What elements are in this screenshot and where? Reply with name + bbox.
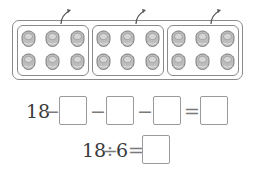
round-candy-icon — [145, 53, 160, 70]
eq2-result-box[interactable] — [142, 135, 170, 164]
eq1-minus-1: − — [44, 102, 60, 121]
eq1-answer-box-3[interactable] — [153, 96, 181, 125]
eq1-answer-box-1[interactable] — [59, 96, 87, 125]
round-candy-icon — [220, 30, 235, 47]
eq2-right: 6 — [116, 141, 128, 160]
curved-arrow-up-icon — [58, 7, 72, 25]
round-candy-icon — [171, 30, 186, 47]
round-candy-icon — [96, 30, 111, 47]
round-candy-icon — [220, 53, 235, 70]
eq1-result-box[interactable] — [200, 96, 228, 125]
round-candy-icon — [70, 53, 85, 70]
round-candy-icon — [145, 30, 160, 47]
eq1-equals: = — [184, 102, 200, 121]
round-candy-icon — [45, 53, 60, 70]
round-candy-icon — [45, 30, 60, 47]
round-candy-icon — [70, 30, 85, 47]
round-candy-icon — [21, 53, 36, 70]
eq1-minus-3: − — [137, 102, 153, 121]
round-candy-icon — [120, 30, 135, 47]
curved-arrow-up-icon — [133, 7, 147, 25]
eq1-answer-box-2[interactable] — [106, 96, 134, 125]
round-candy-icon — [195, 30, 210, 47]
curved-arrow-up-icon — [208, 7, 222, 25]
round-candy-icon — [120, 53, 135, 70]
round-candy-icon — [171, 53, 186, 70]
round-candy-icon — [96, 53, 111, 70]
round-candy-icon — [195, 53, 210, 70]
eq1-minus-2: − — [90, 102, 106, 121]
round-candy-icon — [21, 30, 36, 47]
